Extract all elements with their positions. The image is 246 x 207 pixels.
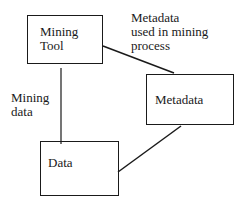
edge-metadata-to-data [118, 126, 181, 172]
node-mining-tool-label: Mining Tool [40, 25, 78, 53]
edge-tool-to-metadata-label: Metadata used in mining process [131, 11, 208, 53]
node-data-label: Data [48, 156, 73, 170]
edge-tool-to-data-label: Mining data [11, 91, 49, 119]
node-metadata-label: Metadata [155, 93, 203, 107]
